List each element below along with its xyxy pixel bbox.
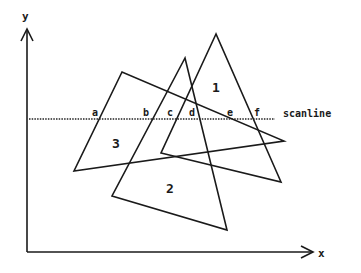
scanline-diagram: y x 1 2 3 scanline a b c d e f — [0, 0, 361, 273]
triangle-2 — [112, 58, 227, 230]
triangle-3 — [74, 72, 284, 171]
triangle-1-label: 1 — [212, 80, 220, 95]
x-axis-label: x — [318, 247, 325, 260]
intersection-f-label: f — [254, 107, 260, 118]
y-axis-label: y — [22, 10, 29, 23]
intersection-d-label: d — [189, 107, 195, 118]
triangle-3-label: 3 — [112, 136, 120, 151]
triangle-1 — [161, 34, 281, 182]
intersection-a-label: a — [92, 107, 98, 118]
triangle-2-label: 2 — [166, 181, 174, 196]
triangles: 1 2 3 — [74, 34, 284, 230]
intersection-c-label: c — [167, 107, 173, 118]
intersection-e-label: e — [227, 107, 233, 118]
scanline-label: scanline — [283, 108, 331, 119]
axes: y x — [21, 10, 325, 260]
intersection-b-label: b — [143, 107, 149, 118]
